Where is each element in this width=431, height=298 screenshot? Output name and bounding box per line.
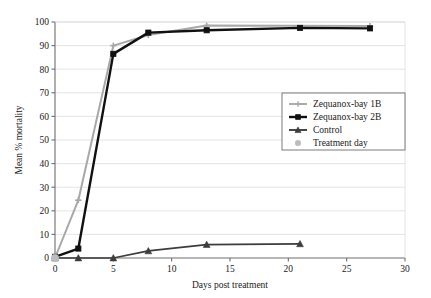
y-tick-label: 70 — [40, 88, 50, 98]
marker-circle — [51, 254, 59, 262]
y-tick-label: 100 — [35, 17, 50, 27]
x-tick-label: 0 — [53, 264, 58, 274]
y-tick-label: 60 — [40, 112, 50, 122]
x-tick-label: 15 — [225, 264, 235, 274]
marker-square — [204, 28, 209, 33]
x-tick-label: 25 — [342, 264, 352, 274]
y-tick-label: 10 — [40, 230, 50, 240]
legend-label: Zequanox-bay 2B — [313, 112, 381, 122]
marker-square — [297, 25, 302, 30]
marker-square — [111, 51, 116, 56]
marker-square — [76, 246, 81, 251]
x-tick-label: 20 — [284, 264, 294, 274]
y-tick-label: 90 — [40, 41, 50, 51]
marker-square — [296, 115, 301, 120]
legend-label: Control — [313, 125, 342, 135]
legend: Zequanox-bay 1BZequanox-bay 2BControlTre… — [282, 93, 405, 150]
y-tick-label: 30 — [40, 183, 50, 193]
y-tick-label: 40 — [40, 159, 50, 169]
y-tick-label: 50 — [40, 135, 50, 145]
marker-circle — [295, 140, 301, 146]
marker-square — [367, 26, 372, 31]
series-line — [55, 244, 300, 258]
y-tick-label: 0 — [44, 253, 49, 263]
x-tick-labels: 051015202530 — [53, 264, 410, 274]
y-tick-labels: 0102030405060708090100 — [35, 17, 50, 263]
x-tick-label: 30 — [400, 264, 410, 274]
chart-svg: 0102030405060708090100 051015202530 Zequ… — [0, 0, 431, 298]
x-tick-label: 5 — [111, 264, 116, 274]
y-axis-title: Mean % mortality — [14, 105, 24, 174]
y-tick-label: 20 — [40, 206, 50, 216]
x-tick-label: 10 — [167, 264, 177, 274]
legend-label: Zequanox-bay 1B — [313, 99, 381, 109]
legend-label: Treatment day — [313, 138, 368, 148]
y-tick-label: 80 — [40, 65, 50, 75]
series-treatment-day — [51, 254, 59, 262]
marker-square — [146, 30, 151, 35]
x-axis-title: Days post treatment — [192, 280, 268, 290]
chart-figure: 0102030405060708090100 051015202530 Zequ… — [0, 0, 431, 298]
